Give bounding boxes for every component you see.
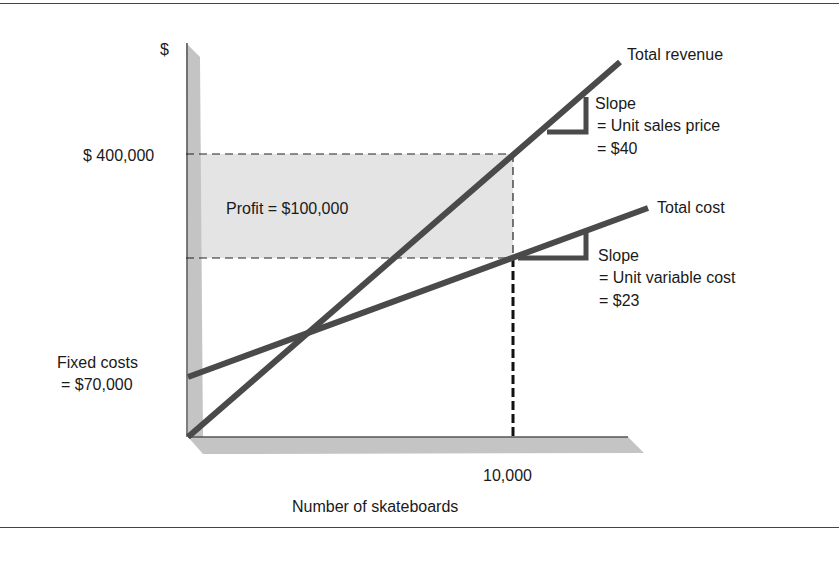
revenue-slope-triangle: [547, 97, 586, 132]
cost-slope-line2: = Unit variable cost: [599, 268, 736, 287]
x-axis-band: [188, 437, 644, 454]
y-axis-band: [186, 43, 203, 440]
x-tick-10k: 10,000: [483, 466, 532, 485]
cost-slope-line1: Slope: [598, 246, 639, 265]
x-axis-label: Number of skateboards: [292, 497, 458, 516]
total-cost-label: Total cost: [657, 198, 725, 217]
revenue-slope-line1: Slope: [595, 94, 636, 113]
total-revenue-label: Total revenue: [627, 45, 723, 64]
y-axis-label: $: [160, 40, 169, 59]
revenue-slope-line2: = Unit sales price: [597, 116, 720, 135]
profit-label: Profit = $100,000: [226, 199, 348, 218]
fixed-costs-line2: = $70,000: [61, 375, 133, 394]
y-tick-400k: $ 400,000: [83, 146, 154, 165]
cost-slope-line3: = $23: [599, 291, 639, 310]
fixed-costs-line1: Fixed costs: [57, 353, 138, 372]
revenue-slope-line3: = $40: [597, 139, 637, 158]
